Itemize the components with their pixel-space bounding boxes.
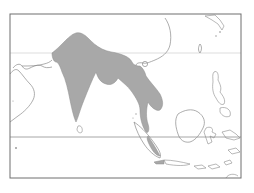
range-map <box>0 0 254 193</box>
ryukyu-dot <box>219 31 221 33</box>
map-canvas <box>0 0 254 193</box>
island-dot <box>15 147 17 149</box>
andaman-islands <box>135 113 136 114</box>
nicobar-islands <box>132 117 133 118</box>
ryukyu-dot <box>215 35 216 36</box>
island-dot <box>12 100 13 101</box>
